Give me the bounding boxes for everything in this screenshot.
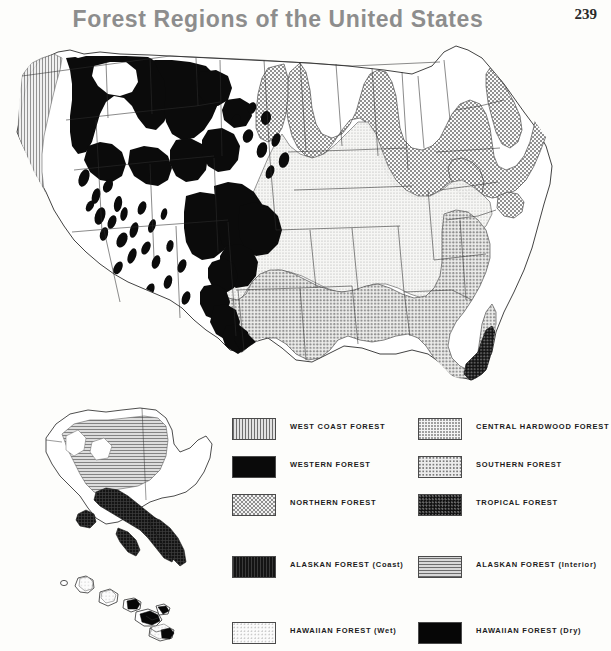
map-canvas <box>0 0 611 651</box>
hawaii-inset-map <box>61 576 175 641</box>
contiguous-us-map <box>17 46 554 380</box>
page-number: 239 <box>575 6 598 23</box>
forest-regions-map-figure <box>0 0 611 651</box>
page-title: Forest Regions of the United States <box>0 6 556 33</box>
alaska-inset-map <box>46 408 212 566</box>
